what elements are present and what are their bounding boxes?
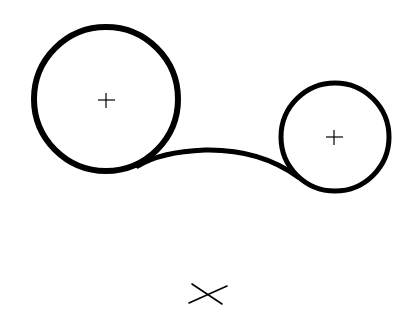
connector-arc [138,150,298,177]
large-circle [34,27,178,171]
diagram-canvas [0,0,404,332]
center-cross-icon [326,130,343,145]
center-cross-icon [98,93,115,108]
cross-mark-icon [189,284,227,304]
